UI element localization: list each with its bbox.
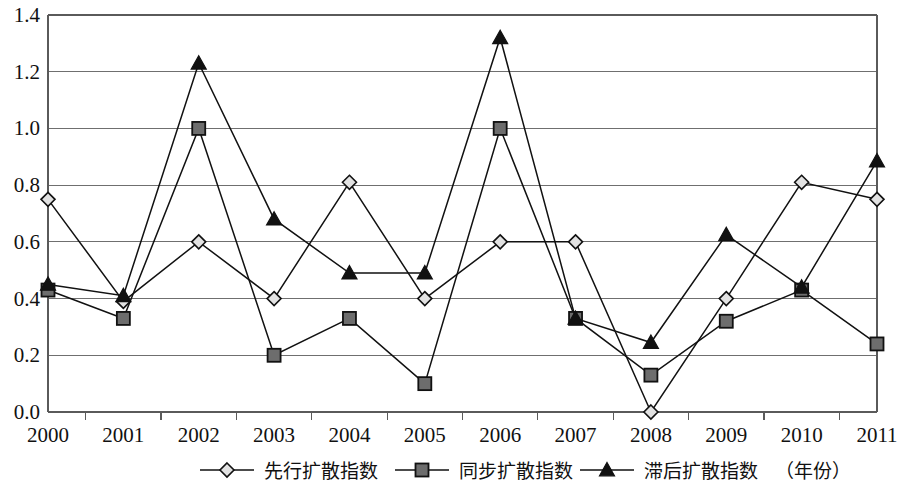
y-tick-label: 0.8 (14, 173, 40, 197)
x-axis-unit-note: （年份） (775, 460, 851, 482)
chart-canvas: 0.00.20.40.60.81.01.21.4 200020012002200… (0, 0, 897, 494)
marker-square (343, 312, 356, 325)
y-tick-label: 0.2 (14, 343, 40, 367)
x-tick-label: 2011 (856, 423, 897, 447)
marker-triangle (417, 266, 432, 279)
x-axis-tick-labels: 2000200120022003200420052006200720082009… (27, 423, 897, 447)
marker-square (644, 369, 657, 382)
y-tick-label: 0.6 (14, 230, 40, 254)
marker-square (192, 122, 205, 135)
marker-square (494, 122, 507, 135)
legend-entry-3[interactable]: 滞后扩散指数 (580, 460, 758, 482)
marker-diamond (569, 235, 583, 249)
series-line (48, 182, 877, 412)
legend-label: 先行扩散指数 (264, 460, 378, 482)
y-tick-label: 1.0 (14, 116, 40, 140)
marker-triangle (643, 335, 658, 348)
marker-triangle (267, 212, 282, 225)
x-tick-label: 2004 (328, 423, 371, 447)
marker-diamond (870, 192, 884, 206)
legend-entry-1[interactable]: 先行扩散指数 (200, 460, 378, 482)
marker-diamond (493, 235, 507, 249)
x-tick-marks (86, 412, 840, 420)
marker-triangle (870, 154, 885, 167)
x-tick-label: 2010 (781, 423, 823, 447)
marker-square (268, 349, 281, 362)
legend-entry-2[interactable]: 同步扩散指数 (395, 460, 573, 482)
x-tick-label: 2000 (27, 423, 69, 447)
y-axis-tick-labels: 0.00.20.40.60.81.01.21.4 (14, 3, 41, 424)
marker-diamond (418, 292, 432, 306)
x-tick-label: 2003 (253, 423, 295, 447)
marker-square (720, 315, 733, 328)
marker-diamond (719, 292, 733, 306)
series-line (48, 38, 877, 343)
y-tick-label: 1.2 (14, 60, 40, 84)
marker-triangle (191, 56, 206, 69)
x-tick-label: 2005 (404, 423, 446, 447)
marker-diamond (220, 463, 234, 477)
series-line (48, 128, 877, 383)
y-tick-label: 0.0 (14, 400, 40, 424)
marker-triangle (719, 227, 734, 240)
marker-square (871, 337, 884, 350)
series-1 (41, 175, 884, 419)
x-tick-label: 2001 (102, 423, 144, 447)
y-tick-label: 0.4 (14, 287, 41, 311)
x-tick-label: 2002 (178, 423, 220, 447)
marker-diamond (795, 175, 809, 189)
chart-axes (48, 15, 877, 412)
gridlines (48, 15, 877, 412)
marker-diamond (192, 235, 206, 249)
x-tick-label: 2008 (630, 423, 672, 447)
marker-triangle (600, 463, 615, 476)
series-3 (41, 30, 885, 348)
diffusion-index-chart: 0.00.20.40.60.81.01.21.4 200020012002200… (0, 0, 897, 494)
marker-triangle (342, 266, 357, 279)
x-tick-label: 2009 (705, 423, 747, 447)
marker-diamond (41, 192, 55, 206)
y-tick-label: 1.4 (14, 3, 41, 27)
marker-diamond (644, 405, 658, 419)
marker-diamond (267, 292, 281, 306)
marker-diamond (342, 175, 356, 189)
legend-label: 同步扩散指数 (459, 460, 573, 482)
marker-square (416, 464, 429, 477)
x-tick-label: 2007 (555, 423, 597, 447)
legend-label: 滞后扩散指数 (644, 460, 758, 482)
x-tick-label: 2006 (479, 423, 521, 447)
marker-triangle (493, 30, 508, 43)
chart-legend: 先行扩散指数同步扩散指数滞后扩散指数（年份） (200, 460, 851, 482)
marker-square (418, 377, 431, 390)
marker-square (117, 312, 130, 325)
data-series (41, 30, 885, 419)
